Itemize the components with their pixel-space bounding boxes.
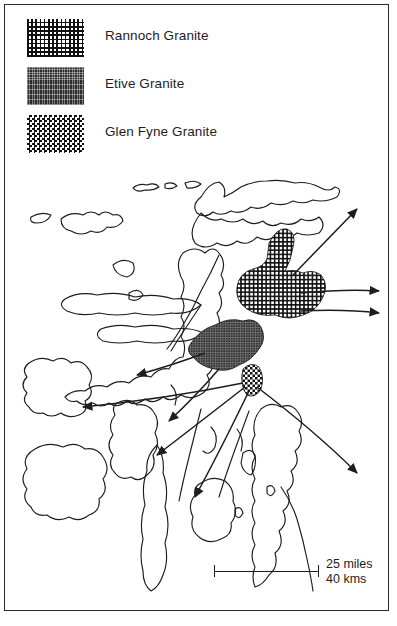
loch-awe [179, 409, 201, 501]
legend-swatch-glen-fyne [27, 115, 84, 153]
island-eigg [31, 213, 51, 223]
peninsula-morvern [97, 325, 203, 343]
island-skye [195, 180, 340, 215]
scale-bar-line [214, 571, 318, 572]
arrow-glenfyne-southeast [257, 387, 357, 473]
scale-bar-tick-right [318, 565, 319, 577]
arrow-rannoch-northeast [293, 209, 357, 275]
scale-bar-kms: 40 kms [326, 572, 373, 587]
figure-frame: Rannoch Granite Etive Granite Glen Fyne … [4, 4, 389, 611]
legend-swatch-etive [27, 67, 84, 105]
island-arran [190, 478, 235, 541]
island-jura [109, 400, 158, 479]
island-islay [23, 444, 107, 519]
inlet-detail-a [203, 427, 216, 453]
arrow-glenfyne-southwest [157, 387, 245, 455]
island-holy [235, 508, 243, 518]
arrow-glenfyne-south [195, 391, 249, 497]
scale-bar-tick-left [214, 565, 215, 577]
granite-glen-fyne [242, 364, 263, 396]
arrow-rannoch-east-southeast [301, 310, 379, 313]
island-rum [61, 212, 123, 234]
island-mull [23, 358, 92, 416]
legend-label-etive: Etive Granite [105, 76, 184, 91]
granite-bodies [188, 229, 325, 396]
island-small-north-a [133, 184, 159, 191]
legend-label-rannoch: Rannoch Granite [105, 28, 209, 43]
peninsula-kintyre [141, 445, 168, 591]
loch-fyne [219, 411, 249, 497]
map-canvas [5, 157, 390, 612]
legend: Rannoch Granite Etive Granite Glen Fyne … [5, 5, 388, 165]
scale-bar: 25 miles 40 kms [214, 554, 374, 594]
island-muck [113, 260, 134, 277]
coast-west-mainland [65, 249, 224, 406]
scale-bar-labels: 25 miles 40 kms [326, 557, 373, 587]
island-cumbrae [267, 486, 275, 496]
arrow-etive-west [137, 353, 205, 375]
island-small-north-c [185, 181, 201, 188]
island-small-north-b [165, 183, 177, 189]
legend-swatch-rannoch [27, 19, 84, 57]
granite-etive [188, 320, 263, 371]
peninsula-ardnamurchan [61, 293, 201, 315]
legend-label-glen-fyne: Glen Fyne Granite [105, 124, 217, 139]
coast-northwest-mainland [192, 213, 323, 247]
scale-bar-miles: 25 miles [326, 557, 373, 572]
